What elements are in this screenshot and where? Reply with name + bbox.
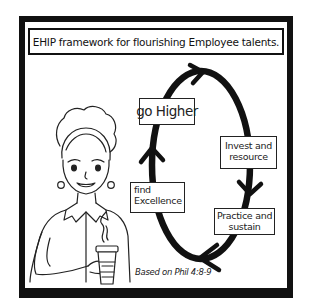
step-practice-and-sustain: Practice and sustain [214,208,275,235]
step-invest-line1: Invest and [221,140,276,151]
step-find-line2: Excellence [134,195,184,206]
right-earring [108,182,115,189]
woman-figure [30,107,130,284]
step-invest-and-resource: Invest and resource [220,136,277,169]
source-caption: Based on Phil 4:8-9 [135,267,211,277]
step-practice-line2: sustain [215,221,274,232]
hair-bun [57,107,117,152]
left-arm [34,232,88,275]
step-find-excellence: find Excellence [130,182,185,213]
step-practice-line1: Practice and [215,210,274,221]
face [63,160,109,194]
left-eye [72,165,77,171]
coffee-cup-icon [96,246,118,284]
step-invest-line2: resource [221,151,276,162]
step-go-higher: go Higher [139,98,195,125]
step-go-higher-label: go Higher [136,103,198,119]
smile [77,183,95,187]
right-eye [96,165,101,171]
left-earring [58,182,65,189]
step-find-line1: find [134,184,184,195]
